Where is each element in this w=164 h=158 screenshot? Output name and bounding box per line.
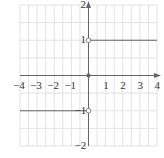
- x-tick-label: 2: [120, 80, 126, 91]
- y-tick-label: −2: [75, 140, 87, 151]
- x-tick-label: −3: [30, 80, 42, 91]
- y-tick-label: 2: [81, 0, 87, 10]
- open-point: [86, 108, 91, 113]
- y-tick-label: −1: [75, 105, 87, 116]
- x-tick-label: −4: [13, 80, 25, 91]
- open-point: [86, 38, 91, 43]
- x-tick-label: 4: [155, 80, 161, 91]
- closed-point: [87, 74, 91, 78]
- x-tick-label: 3: [137, 80, 143, 91]
- y-tick-label: 1: [81, 34, 87, 45]
- x-tick-label: −1: [64, 80, 76, 91]
- x-tick-label: −2: [47, 80, 59, 91]
- x-tick-label: 1: [103, 80, 109, 91]
